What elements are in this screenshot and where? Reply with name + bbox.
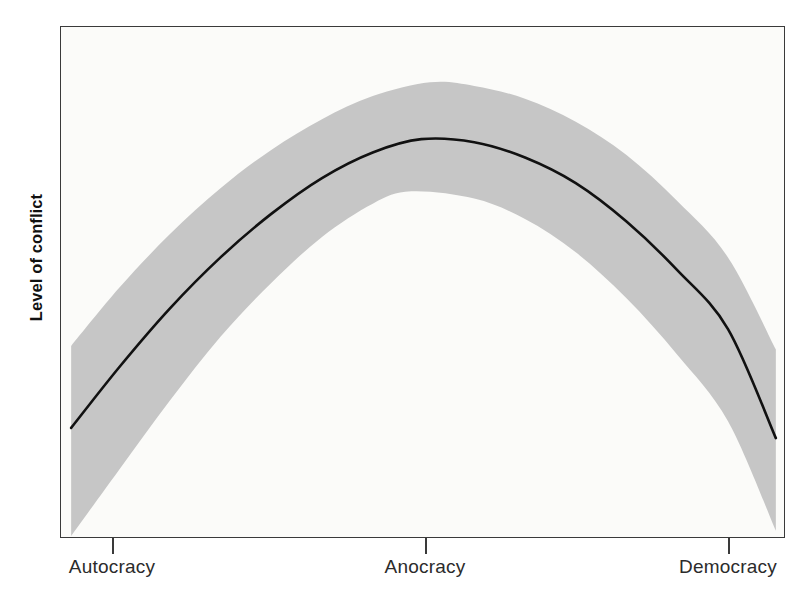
confidence-band (71, 82, 776, 536)
x-axis-tick-anocracy (425, 538, 427, 554)
x-axis-label-autocracy: Autocracy (69, 556, 155, 578)
figure-container: Level of conflict Autocracy Anocracy Dem… (0, 0, 812, 608)
x-axis-label-anocracy: Anocracy (385, 556, 466, 578)
x-axis-tick-autocracy (112, 538, 114, 554)
plot-area (60, 26, 785, 538)
x-axis-tick-democracy (728, 538, 730, 554)
plot-svg (61, 27, 785, 538)
x-axis-label-democracy: Democracy (679, 556, 777, 578)
y-axis-label: Level of conflict (27, 158, 46, 358)
